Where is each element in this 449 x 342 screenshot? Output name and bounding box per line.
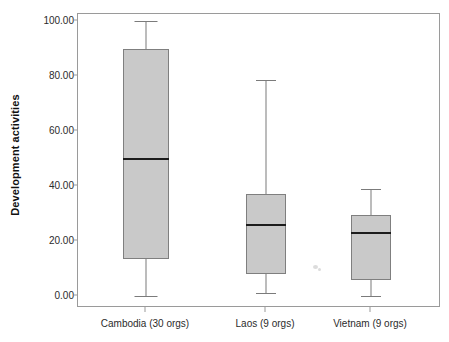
- y-axis-tick-label: 80.00: [28, 70, 74, 81]
- median-line: [246, 224, 286, 226]
- y-axis-tick-label: 60.00: [28, 125, 74, 136]
- median-line: [351, 232, 391, 234]
- lower-whisker-cap: [256, 293, 276, 294]
- y-axis-ticks: 0.0020.0040.0060.0080.00100.00: [24, 0, 74, 342]
- y-axis-tick-label: 100.00: [28, 15, 74, 26]
- box-plot-group: [246, 14, 286, 306]
- box-plot-group: [123, 14, 169, 306]
- box-iqr-rect: [123, 49, 169, 259]
- upper-whisker-line: [266, 80, 267, 194]
- y-axis-title-label: Development activities: [9, 94, 21, 215]
- lower-whisker-cap: [135, 296, 158, 297]
- lower-whisker-cap: [361, 296, 381, 297]
- box-plot-group: [351, 14, 391, 306]
- lower-whisker-line: [146, 259, 147, 296]
- x-axis-tick-mark: [145, 307, 146, 312]
- lower-whisker-line: [371, 280, 372, 297]
- median-line: [123, 158, 169, 160]
- upper-whisker-line: [371, 189, 372, 215]
- y-axis-tick-label: 0.00: [28, 290, 74, 301]
- upper-whisker-line: [146, 21, 147, 49]
- x-axis-tick-mark: [370, 307, 371, 312]
- upper-whisker-cap: [361, 189, 381, 190]
- y-axis-tick-label: 40.00: [28, 180, 74, 191]
- plot-area: [77, 13, 440, 307]
- upper-whisker-cap: [256, 80, 276, 81]
- lower-whisker-line: [266, 274, 267, 293]
- x-axis-tick-label: Laos (9 orgs): [236, 318, 295, 329]
- scan-speck: [318, 268, 321, 271]
- box-iqr-rect: [351, 215, 391, 280]
- upper-whisker-cap: [135, 21, 158, 22]
- x-axis-tick-label: Vietnam (9 orgs): [333, 318, 407, 329]
- x-axis-tick-mark: [265, 307, 266, 312]
- box-iqr-rect: [246, 194, 286, 274]
- x-axis-tick-label: Cambodia (30 orgs): [101, 318, 189, 329]
- y-axis-tick-label: 20.00: [28, 235, 74, 246]
- boxplot-figure: Development activities 0.0020.0040.0060.…: [0, 0, 449, 342]
- y-axis-title: Development activities: [4, 0, 26, 310]
